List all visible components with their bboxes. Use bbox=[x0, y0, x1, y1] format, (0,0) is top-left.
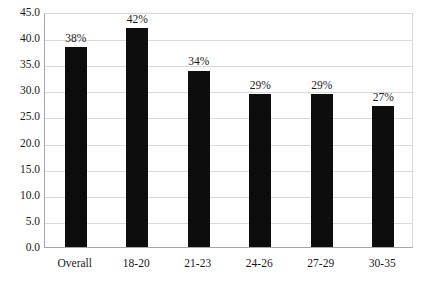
y-axis-tick-label: 25.0 bbox=[2, 112, 40, 124]
bar-slot: 38% bbox=[45, 14, 107, 247]
y-axis-tick-label: 45.0 bbox=[2, 7, 40, 19]
bar[interactable] bbox=[372, 106, 394, 247]
bar-value-label: 29% bbox=[311, 80, 332, 92]
bar[interactable] bbox=[188, 71, 210, 248]
y-axis-tick-label: 10.0 bbox=[2, 190, 40, 202]
bar-value-label: 38% bbox=[65, 33, 86, 45]
bar-slot: 29% bbox=[230, 14, 292, 247]
x-axis-tick-label: 27-29 bbox=[307, 258, 334, 270]
y-axis-tick-label: 35.0 bbox=[2, 59, 40, 71]
bar-slot: 42% bbox=[107, 14, 169, 247]
x-axis-tick-label: 30-35 bbox=[369, 258, 396, 270]
plot-area: 38%42%34%29%29%27% bbox=[44, 13, 413, 248]
bar[interactable] bbox=[249, 94, 271, 247]
bar-value-label: 34% bbox=[188, 56, 209, 68]
y-axis: 0.05.010.015.020.025.030.035.040.045.0 bbox=[0, 13, 40, 248]
bar[interactable] bbox=[311, 94, 333, 247]
bar-slot: 29% bbox=[291, 14, 353, 247]
x-axis-tick-label: 21-23 bbox=[184, 258, 211, 270]
y-axis-tick-label: 0.0 bbox=[2, 242, 40, 254]
x-axis-tick-label: 18-20 bbox=[123, 258, 150, 270]
bar[interactable] bbox=[126, 28, 148, 247]
y-axis-tick-label: 40.0 bbox=[2, 33, 40, 45]
bar-value-label: 42% bbox=[127, 14, 148, 26]
y-axis-tick-label: 15.0 bbox=[2, 164, 40, 176]
bar[interactable] bbox=[65, 47, 87, 247]
x-axis: Overall18-2021-2324-2627-2930-35 bbox=[44, 252, 413, 276]
bar-slot: 27% bbox=[353, 14, 415, 247]
x-axis-tick-label: Overall bbox=[58, 258, 92, 270]
y-axis-tick-label: 30.0 bbox=[2, 86, 40, 98]
bar-chart: 0.05.010.015.020.025.030.035.040.045.0 3… bbox=[0, 0, 421, 291]
bar-value-label: 27% bbox=[373, 92, 394, 104]
bar-value-label: 29% bbox=[250, 80, 271, 92]
y-axis-tick-label: 5.0 bbox=[2, 216, 40, 228]
x-axis-tick-label: 24-26 bbox=[246, 258, 273, 270]
bar-slot: 34% bbox=[168, 14, 230, 247]
y-axis-tick-label: 20.0 bbox=[2, 138, 40, 150]
